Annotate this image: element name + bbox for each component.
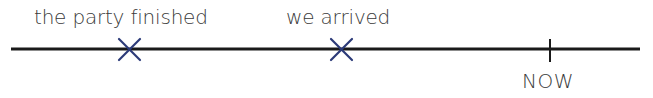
event-label-party-finished: the party finished (34, 7, 208, 27)
now-label: NOW (522, 71, 574, 91)
event-label-we-arrived: we arrived (286, 7, 390, 27)
